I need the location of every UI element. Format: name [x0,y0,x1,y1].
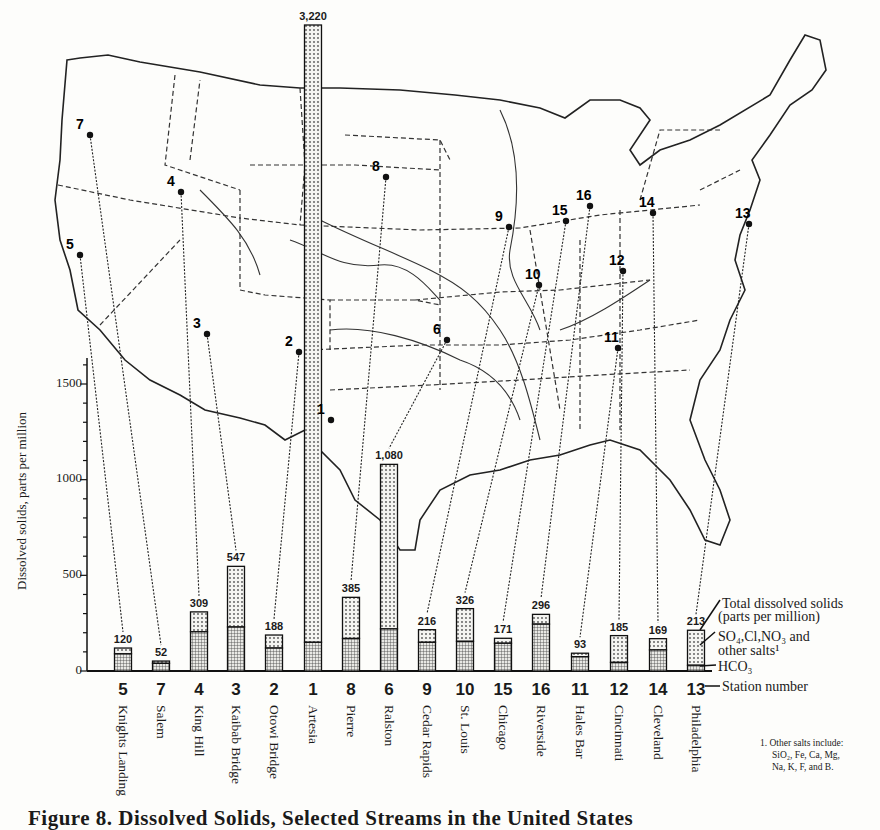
station-number: 15 [488,680,518,700]
station-name: Chicago [495,705,511,750]
station-marker-label: 7 [76,116,84,132]
bar-total-label: 171 [478,623,528,635]
station-marker [746,221,752,227]
bar-total-label: 309 [174,597,224,609]
station-marker-label: 10 [525,266,541,282]
station-marker-label: 6 [433,321,441,337]
bar-salts [533,614,550,624]
y-tick-1000: 1000 [36,470,82,486]
station-number: 8 [336,680,366,700]
footnote: 1. Other salts include: SiO₂, Fe, Ca, Mg… [760,737,843,773]
bar-hco3 [228,627,245,671]
chart-graphics: 57432186910151611121413 [0,0,880,830]
bar-hco3 [343,638,360,671]
station-marker-label: 2 [285,333,293,349]
station-marker [204,331,210,337]
legend-station-number: Station number [722,680,808,694]
station-number: 5 [108,680,138,700]
bar-salts [305,25,322,642]
legend-hco3: HCO₃ [718,660,752,674]
bar-salts [611,636,628,663]
station-name: Cincinnati [611,705,627,761]
station-marker-label: 5 [66,236,74,252]
bar-total-label: 385 [326,582,376,594]
y-tick-500: 500 [36,566,82,582]
station-markers: 57432186910151611121413 [66,116,752,423]
station-marker [563,218,569,224]
y-tick-1500: 1500 [36,375,82,391]
bar-salts [688,630,705,665]
bar-salts [343,597,360,638]
station-name: Knights Landing [115,705,131,796]
station-marker-label: 15 [552,202,568,218]
station-name: Kaibab Bridge [228,705,244,784]
y-tick-0: 0 [36,662,82,678]
bar-salts [495,638,512,643]
bar-hco3 [457,641,474,671]
station-name: Riverside [533,705,549,757]
rivers [200,110,650,440]
station-marker [620,268,626,274]
station-number: 7 [146,680,176,700]
bar-total-label: 188 [249,620,299,632]
station-number: 12 [604,680,634,700]
station-number: 13 [681,680,711,700]
bar-total-label: 93 [555,638,605,650]
bar-total-label: 216 [402,615,452,627]
station-marker [328,417,334,423]
bar-salts [115,648,132,654]
footnote-line-3: Na, K, F, and B. [760,761,843,773]
footnote-line-1: 1. Other salts include: [760,737,843,749]
station-number: 9 [412,680,442,700]
bar-salts [381,464,398,629]
bar-salts [419,630,436,643]
station-name: Cedar Rapids [419,705,435,778]
bar-hco3 [115,654,132,671]
figure-caption: Figure 8. Dissolved Solids, Selected Str… [28,806,633,830]
station-marker-label: 16 [576,187,592,203]
bar-salts [191,612,208,632]
station-name: Otowi Bridge [266,705,282,779]
bar-hco3 [266,648,283,671]
bar-hco3 [305,642,322,671]
bar-total-label: 213 [671,615,721,627]
bar-total-label: 296 [516,599,566,611]
station-number: 6 [374,680,404,700]
bar-hco3 [191,632,208,671]
legend-pointers [700,600,720,686]
bar-hco3 [650,650,667,671]
bar-hco3 [153,663,170,671]
figure: 57432186910151611121413 Dissolved solids… [0,0,880,830]
bar-salts [457,609,474,642]
station-name: Hales Bar [572,705,588,759]
state-boundaries [58,75,740,430]
bar-total-label: 120 [98,633,148,645]
station-name: Philadelphia [688,705,704,773]
station-number: 14 [643,680,673,700]
station-number: 10 [450,680,480,700]
station-number: 4 [184,680,214,700]
station-name: Ralston [381,705,397,746]
station-marker-label: 1 [317,401,325,417]
station-name: Cleveland [650,705,666,760]
station-marker [650,210,656,216]
bar-total-label: 1,080 [364,449,414,461]
station-marker [77,252,83,258]
y-axis-label: Dissolved solids, parts per million [14,412,30,590]
station-marker [536,282,542,288]
station-name: King Hill [191,705,207,756]
legend-salts: SO₄,Cl,NO₃ and [718,630,810,644]
legend-total-sub: (parts per million) [718,610,820,624]
station-name: Artesia [305,705,321,744]
station-marker-label: 11 [604,329,619,345]
station-name: Salem [153,705,169,739]
bar-hco3 [419,642,436,671]
station-number: 11 [565,680,595,700]
y-ticks [80,365,87,671]
leader-lines [80,135,749,645]
station-marker-label: 8 [372,158,380,174]
station-name: Pierre [343,705,359,737]
bar-total-label: 547 [211,551,261,563]
station-number: 3 [221,680,251,700]
bar-salts [650,639,667,650]
